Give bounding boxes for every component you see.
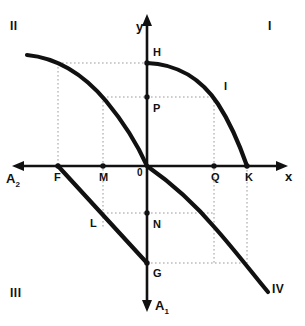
- curve-three-quadrant-iv: [147, 166, 268, 292]
- marker-p: [144, 94, 149, 99]
- x-axis-label: x: [285, 170, 292, 183]
- curve-two-quadrant-ii: [27, 55, 147, 166]
- negative-x-axis-subscript: 2: [15, 180, 19, 189]
- quadrant-label-ii: II: [10, 20, 18, 32]
- quadrant-label-i: I: [268, 20, 272, 32]
- negative-y-axis-label: A1: [155, 299, 169, 316]
- point-label-m: M: [99, 172, 108, 183]
- marker-h: [144, 60, 149, 65]
- quadrant-label-iv: IV: [272, 283, 284, 295]
- curve-label-l: L: [90, 218, 97, 229]
- negative-y-axis-subscript: 1: [164, 307, 168, 316]
- y-axis-label: y: [136, 20, 143, 33]
- point-label-p: P: [153, 103, 160, 114]
- marker-n: [144, 210, 149, 215]
- point-label-f: F: [54, 172, 61, 183]
- negative-y-axis-letter: A: [155, 298, 164, 313]
- point-label-n: N: [153, 219, 161, 230]
- marker-m: [100, 163, 105, 168]
- marker-k: [244, 163, 249, 168]
- origin-label: 0: [137, 168, 143, 178]
- four-quadrant-diagram: II I III IV y x A2 A1 0 H P N G F M Q K …: [0, 0, 305, 326]
- point-label-k: K: [245, 172, 253, 183]
- marker-q: [211, 163, 216, 168]
- curve-label-one: I: [224, 81, 227, 92]
- y-axis-arrow-up: [142, 14, 152, 26]
- point-label-q: Q: [211, 172, 220, 183]
- curve-one-quadrant-i: [147, 63, 247, 166]
- quadrant-label-iii: III: [10, 287, 22, 299]
- marker-f: [55, 163, 60, 168]
- marker-g: [144, 260, 149, 265]
- x-axis-arrow-left: [12, 161, 24, 171]
- negative-x-axis-letter: A: [6, 171, 15, 186]
- point-label-h: H: [153, 47, 161, 58]
- y-axis-arrow-down: [142, 300, 152, 312]
- negative-x-axis-label: A2: [6, 172, 20, 189]
- point-label-g: G: [153, 268, 162, 279]
